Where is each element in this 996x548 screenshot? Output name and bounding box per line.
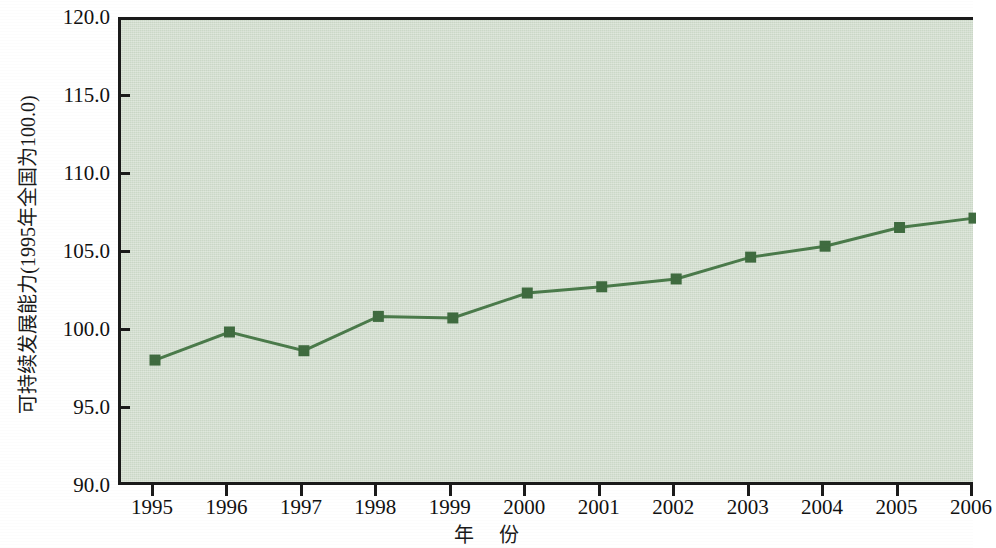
data-point-marker — [671, 273, 682, 284]
x-axis-title: 年 份 — [0, 519, 973, 548]
y-axis-tick-label: 90.0 — [36, 475, 110, 496]
data-point-marker — [522, 288, 533, 299]
x-axis-tick-label: 2006 — [926, 495, 996, 519]
data-point-marker — [373, 311, 384, 322]
data-point-marker — [820, 241, 831, 252]
data-point-marker — [894, 222, 905, 233]
data-point-marker — [969, 213, 977, 224]
y-axis-tick-label: 120.0 — [36, 7, 110, 28]
y-axis-tick-mark — [118, 172, 130, 175]
data-point-marker — [745, 252, 756, 263]
y-axis-tick-mark — [118, 406, 130, 409]
data-point-marker — [298, 345, 309, 356]
y-axis-tick-label: 110.0 — [36, 163, 110, 184]
series-line-chart — [121, 20, 976, 488]
data-point-marker — [150, 355, 161, 366]
y-axis-tick-label: 105.0 — [36, 241, 110, 262]
data-point-marker — [596, 281, 607, 292]
y-axis-tick-label: 95.0 — [36, 397, 110, 418]
plot-area — [118, 17, 973, 485]
data-point-marker — [224, 327, 235, 338]
y-axis-tick-label: 100.0 — [36, 319, 110, 340]
y-axis-tick-labels: 90.095.0100.0105.0110.0115.0120.0 — [28, 0, 110, 548]
data-line — [155, 218, 974, 360]
y-axis-tick-label: 115.0 — [36, 85, 110, 106]
y-axis-tick-mark — [118, 94, 130, 97]
data-point-marker — [447, 312, 458, 323]
y-axis-tick-mark — [118, 328, 130, 331]
y-axis-tick-mark — [118, 250, 130, 253]
